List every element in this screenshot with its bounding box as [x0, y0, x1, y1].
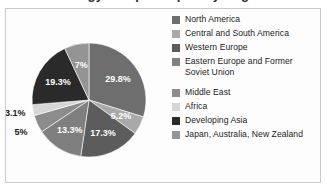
- pie-slices-group: [32, 43, 146, 157]
- pie-svg: 29.8%5.2%17.3%13.3%5%3.1%19.3%7%: [6, 10, 164, 181]
- legend-item[interactable]: Eastern Europe and Former Soviet Union: [172, 56, 324, 78]
- legend-item[interactable]: North America: [172, 14, 324, 25]
- pie-slice-value-label: 5.2%: [111, 111, 132, 121]
- legend: North AmericaCentral and South AmericaWe…: [172, 14, 324, 143]
- legend-swatch-icon: [172, 117, 180, 125]
- pie-slice-value-label: 5%: [14, 127, 27, 137]
- legend-swatch-icon: [172, 103, 180, 111]
- legend-swatch-icon: [172, 131, 180, 139]
- legend-item[interactable]: Africa: [172, 101, 324, 112]
- legend-swatch-icon: [172, 89, 180, 97]
- legend-item[interactable]: Middle East: [172, 87, 324, 98]
- pie-slice-value-label: 19.3%: [45, 77, 71, 87]
- pie-slice-value-label: 29.8%: [105, 74, 131, 84]
- pie-slice-value-label: 7%: [75, 60, 88, 70]
- legend-item-label: Japan, Australia, New Zealand: [185, 129, 303, 140]
- legend-item[interactable]: Western Europe: [172, 42, 324, 53]
- pie-plot-area: 29.8%5.2%17.3%13.3%5%3.1%19.3%7%: [6, 10, 164, 181]
- pie-chart-figure: Energy Use per Capita by Region 29.8%5.2…: [0, 0, 327, 191]
- legend-item-label: Western Europe: [185, 42, 248, 53]
- legend-item-label: Developing Asia: [185, 115, 247, 126]
- legend-item[interactable]: Central and South America: [172, 28, 324, 39]
- legend-item-label: Central and South America: [185, 28, 289, 39]
- pie-slice-value-label: 3.1%: [6, 108, 25, 118]
- legend-swatch-icon: [172, 30, 180, 38]
- pie-slice-value-label: 17.3%: [90, 128, 116, 138]
- legend-item[interactable]: Japan, Australia, New Zealand: [172, 129, 324, 140]
- page-title: Energy Use per Capita by Region: [0, 0, 327, 3]
- legend-item-label: Middle East: [185, 87, 230, 98]
- legend-item[interactable]: Developing Asia: [172, 115, 324, 126]
- legend-swatch-icon: [172, 16, 180, 24]
- legend-swatch-icon: [172, 58, 180, 66]
- legend-item-label: Africa: [185, 101, 207, 112]
- legend-swatch-icon: [172, 44, 180, 52]
- legend-item-label: Eastern Europe and Former Soviet Union: [185, 56, 293, 78]
- pie-slice-value-label: 13.3%: [57, 125, 83, 135]
- legend-item-label: North America: [185, 14, 240, 25]
